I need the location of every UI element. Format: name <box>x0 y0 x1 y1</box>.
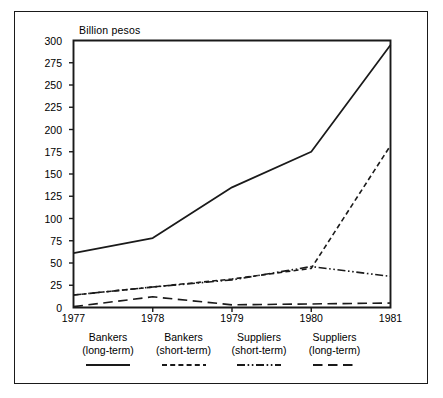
legend-entry-3[interactable]: Suppliers(long-term) <box>289 331 381 370</box>
legend-label-primary: Suppliers <box>289 331 381 344</box>
chart-legend: Bankers(long-term)Bankers(short-term)Sup… <box>0 0 443 398</box>
legend-label-secondary: (long-term) <box>289 344 381 357</box>
legend-swatch-solid <box>85 360 131 370</box>
legend-swatch-long-dash <box>312 360 358 370</box>
legend-swatch-dashed <box>161 360 207 370</box>
legend-swatch-dash-dot-dot <box>236 360 282 370</box>
